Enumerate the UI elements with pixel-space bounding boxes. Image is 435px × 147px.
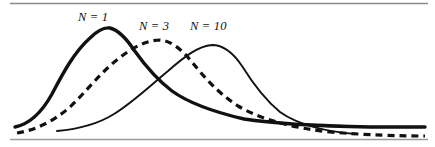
curve-n10 — [57, 45, 355, 134]
curve-n1 — [15, 28, 425, 127]
curve-label-n10: N = 10 — [190, 20, 227, 33]
curve-label-n3: N = 3 — [139, 20, 169, 33]
curve-n3 — [17, 40, 425, 136]
curve-label-n1: N = 1 — [78, 11, 108, 24]
distribution-curves-figure: N = 1 N = 3 N = 10 — [0, 0, 435, 147]
